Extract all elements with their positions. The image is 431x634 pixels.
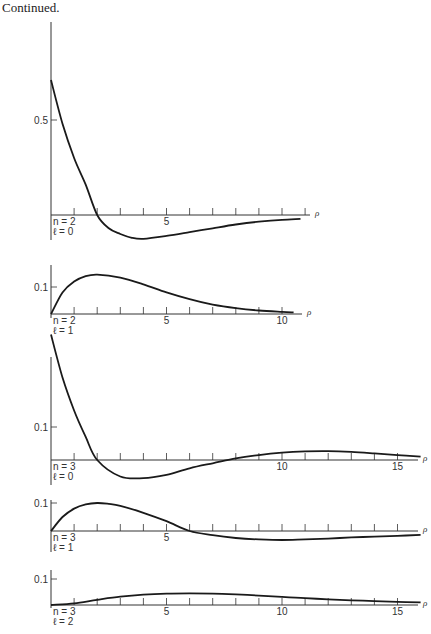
x-tick-label: 10 <box>276 315 288 326</box>
x-axis-label: ρ <box>306 307 312 317</box>
x-axis-label: ρ <box>422 524 428 534</box>
x-tick-label: 10 <box>276 606 288 617</box>
x-tick-label: 15 <box>392 606 404 617</box>
panel-label: ℓ = 0 <box>53 226 74 237</box>
panel-label: ℓ = 1 <box>53 325 74 336</box>
x-tick-label: 5 <box>164 315 170 326</box>
panel-label: ℓ = 0 <box>53 471 74 482</box>
y-tick-label: 0.1 <box>34 498 48 509</box>
wavefunction-curve <box>51 503 421 540</box>
x-tick-label: 5 <box>164 606 170 617</box>
panel-label: ℓ = 2 <box>53 616 74 627</box>
x-tick-label: 10 <box>276 461 288 472</box>
x-tick-label: 15 <box>392 461 404 472</box>
wavefunction-curve <box>51 275 294 314</box>
y-tick-label: 0.1 <box>34 282 48 293</box>
x-axis-label: ρ <box>314 208 320 218</box>
y-tick-label: 0.5 <box>34 115 48 126</box>
panel-label: ℓ = 1 <box>53 542 74 553</box>
x-axis-label: ρ <box>422 598 428 608</box>
x-tick-label: 5 <box>164 532 170 543</box>
y-tick-label: 0.1 <box>34 574 48 585</box>
y-tick-label: 0.1 <box>34 422 48 433</box>
x-tick-label: 5 <box>164 216 170 227</box>
radial-wavefunction-plots: 50.5ρn = 2ℓ = 05100.1ρn = 2ℓ = 110150.1ρ… <box>0 0 431 634</box>
x-axis-label: ρ <box>422 453 428 463</box>
